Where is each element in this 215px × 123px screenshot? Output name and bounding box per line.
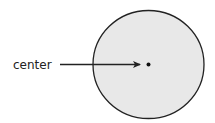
center-point <box>147 63 151 67</box>
center-label: center <box>13 58 52 72</box>
circle-diagram: center <box>0 0 215 123</box>
